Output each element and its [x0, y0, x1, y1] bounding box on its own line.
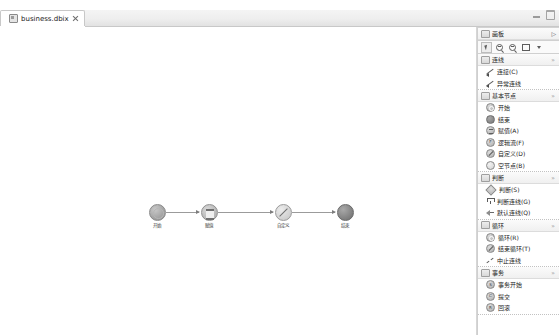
- chevron-right-icon[interactable]: ▷: [551, 30, 556, 37]
- folder-icon: [481, 221, 490, 229]
- palette-item[interactable]: 赋值(A): [478, 125, 559, 137]
- start-node-icon: [149, 204, 166, 221]
- palette-section-title: 循环: [492, 221, 549, 230]
- close-icon[interactable]: [72, 15, 79, 22]
- palette-item[interactable]: R回滚: [478, 302, 559, 314]
- palette-section-header[interactable]: 事务»: [478, 267, 559, 279]
- flow-node-label: 赋值: [205, 223, 213, 229]
- end-node-icon: [486, 115, 495, 124]
- palette-section-overflow-icon[interactable]: »: [551, 269, 556, 276]
- palette-section-header[interactable]: 连线»: [478, 54, 559, 66]
- transaction-start-icon: S: [486, 280, 495, 289]
- custom-node-icon: [486, 149, 495, 158]
- zoom-out-icon: [509, 44, 516, 51]
- zoom-in-tool-button[interactable]: [494, 42, 505, 53]
- flow-node-custom[interactable]: 自定义: [261, 204, 305, 229]
- palette-item[interactable]: 自定义(D): [478, 148, 559, 160]
- palette-item-label: 循环(R): [498, 233, 519, 242]
- abort-link-icon: [486, 256, 494, 264]
- flow-node-assign[interactable]: 赋值: [187, 204, 231, 229]
- palette-item[interactable]: 结束循环(T): [478, 243, 559, 255]
- loop-node-icon: [486, 233, 495, 242]
- assign-node-icon: [486, 126, 495, 135]
- palette-title: 画板: [492, 29, 549, 38]
- palette-item-label: 判断连线(G): [497, 197, 530, 206]
- caret-down-icon: [537, 46, 541, 49]
- tool-dropdown-button[interactable]: [533, 42, 544, 53]
- palette-section: 基本节点»开始结束赋值(A)F逻辑流(F)自定义(D)空节点(B): [478, 90, 559, 172]
- palette-item[interactable]: S事务开始: [478, 279, 559, 291]
- window-controls: [532, 10, 555, 20]
- palette-item-label: 连接(C): [497, 67, 518, 76]
- palette-item[interactable]: 开始: [478, 102, 559, 114]
- palette-section-overflow-icon[interactable]: »: [551, 92, 556, 99]
- palette-item-label: 开始: [498, 103, 510, 112]
- rollback-icon: R: [486, 303, 495, 312]
- palette-section-header[interactable]: 基本节点»: [478, 90, 559, 102]
- palette-section: 事务»S事务开始C提交R回滚: [478, 267, 559, 315]
- palette-item[interactable]: 空节点(B): [478, 160, 559, 172]
- palette-item-label: 回滚: [498, 303, 510, 312]
- flow-node-end[interactable]: 结束: [323, 204, 367, 229]
- folder-icon: [481, 174, 490, 182]
- palette-title-bar[interactable]: 画板 ▷: [478, 27, 559, 40]
- palette-item[interactable]: 中止连线: [478, 255, 559, 267]
- palette-panel: 画板 ▷ 连线»连接(C)异常连线基本节点»开始结束赋值(A)F逻辑流(F)自定…: [477, 27, 559, 335]
- palette-item-label: 自定义(D): [498, 149, 525, 158]
- empty-node-icon: [486, 161, 495, 170]
- assign-node-icon: [201, 204, 218, 221]
- decision-node-icon: [485, 184, 496, 195]
- flow-edge[interactable]: [218, 212, 273, 213]
- window-top-bar: business.dbix: [0, 0, 559, 27]
- palette-item-label: 结束循环(T): [498, 244, 530, 253]
- flow-node-label: 开始: [153, 223, 161, 229]
- start-node-icon: [486, 103, 495, 112]
- palette-item[interactable]: 判断(S): [478, 184, 559, 196]
- palette-item[interactable]: F逻辑流(F): [478, 137, 559, 149]
- palette-section-title: 连线: [492, 55, 549, 64]
- loop-end-node-icon: [486, 244, 495, 253]
- marquee-tool-button[interactable]: [520, 42, 531, 53]
- file-icon: [9, 14, 18, 23]
- logic-node-icon: F: [486, 138, 495, 147]
- diagram-canvas[interactable]: 开始赋值自定义结束: [0, 27, 477, 335]
- editor-tab-business-dbix[interactable]: business.dbix: [0, 10, 85, 26]
- editor-tab-strip: business.dbix: [0, 8, 559, 27]
- cursor-icon: [484, 44, 489, 50]
- palette-item[interactable]: 循环(R): [478, 232, 559, 244]
- folder-icon: [481, 269, 490, 277]
- palette-item-label: 异常连线: [497, 79, 521, 88]
- commit-icon: C: [486, 292, 495, 301]
- palette-item[interactable]: 异常连线: [478, 78, 559, 90]
- maximize-icon[interactable]: [546, 10, 555, 20]
- flow-diagram: 开始赋值自定义结束: [0, 27, 476, 335]
- palette-section-header[interactable]: 判断»: [478, 172, 559, 184]
- flow-edge[interactable]: [166, 212, 199, 213]
- folder-icon: [481, 92, 490, 100]
- palette-section-header[interactable]: 循环»: [478, 220, 559, 232]
- palette-item-label: 空节点(B): [498, 161, 525, 170]
- palette-item[interactable]: 判断连线(G): [478, 196, 559, 208]
- palette-section-overflow-icon[interactable]: »: [551, 222, 556, 229]
- zoom-out-tool-button[interactable]: [507, 42, 518, 53]
- rectangle-icon: [522, 44, 530, 51]
- flow-node-start[interactable]: 开始: [135, 204, 179, 229]
- arrow-line-icon: [486, 68, 494, 76]
- palette-item-label: 事务开始: [498, 280, 522, 289]
- palette-section-overflow-icon[interactable]: »: [551, 56, 556, 63]
- palette-toolbar: [478, 40, 559, 54]
- palette-item[interactable]: 默认连线(Q): [478, 207, 559, 219]
- folder-icon: [481, 56, 490, 64]
- palette-section-overflow-icon[interactable]: »: [551, 174, 556, 181]
- palette-item[interactable]: 结束: [478, 114, 559, 126]
- arrow-line-icon: [486, 79, 494, 87]
- application-window: business.dbix 开始赋值自定义结束 画板 ▷: [0, 0, 559, 335]
- palette-section-title: 判断: [492, 173, 549, 182]
- palette-item[interactable]: 连接(C): [478, 66, 559, 78]
- select-tool-button[interactable]: [481, 42, 492, 53]
- palette-item-label: 默认连线(Q): [497, 208, 530, 217]
- flow-edge[interactable]: [292, 212, 335, 213]
- palette-section-list: 连线»连接(C)异常连线基本节点»开始结束赋值(A)F逻辑流(F)自定义(D)空…: [478, 54, 559, 315]
- palette-item[interactable]: C提交: [478, 291, 559, 303]
- minimize-icon[interactable]: [532, 11, 541, 20]
